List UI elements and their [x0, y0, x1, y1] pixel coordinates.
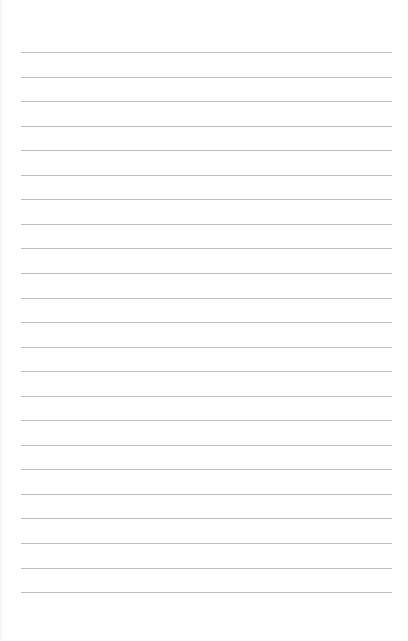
ruled-line	[21, 52, 392, 53]
ruled-line	[21, 445, 392, 446]
lined-paper-page	[0, 0, 408, 641]
ruled-line	[21, 298, 392, 299]
ruled-line	[21, 322, 392, 323]
ruled-line	[21, 77, 392, 78]
ruled-line	[21, 592, 392, 593]
ruled-line	[21, 469, 392, 470]
ruled-line	[21, 101, 392, 102]
ruled-line	[21, 420, 392, 421]
ruled-line	[21, 273, 392, 274]
ruled-line	[21, 248, 392, 249]
ruled-line	[21, 224, 392, 225]
ruled-line	[21, 175, 392, 176]
ruled-line	[21, 371, 392, 372]
page-edge	[0, 0, 3, 641]
ruled-line	[21, 494, 392, 495]
ruled-line	[21, 347, 392, 348]
ruled-line	[21, 396, 392, 397]
ruled-line	[21, 518, 392, 519]
ruled-line	[21, 199, 392, 200]
ruled-line	[21, 568, 392, 569]
ruled-line	[21, 126, 392, 127]
ruled-line	[21, 543, 392, 544]
ruled-line	[21, 150, 392, 151]
